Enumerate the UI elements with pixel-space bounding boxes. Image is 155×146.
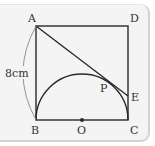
segment-ae <box>36 26 128 96</box>
label-d: D <box>130 12 139 25</box>
dimension-label: 8cm <box>5 67 29 80</box>
label-e: E <box>131 91 139 104</box>
label-a: A <box>27 12 37 25</box>
label-p: P <box>100 82 108 95</box>
center-point-o <box>80 118 84 122</box>
label-o: O <box>77 124 86 137</box>
label-c: C <box>130 124 138 137</box>
label-b: B <box>31 124 39 137</box>
semicircle-o <box>36 74 128 120</box>
geometry-diagram: A D B C O E P 8cm <box>0 0 155 146</box>
square-abcd <box>36 26 128 120</box>
